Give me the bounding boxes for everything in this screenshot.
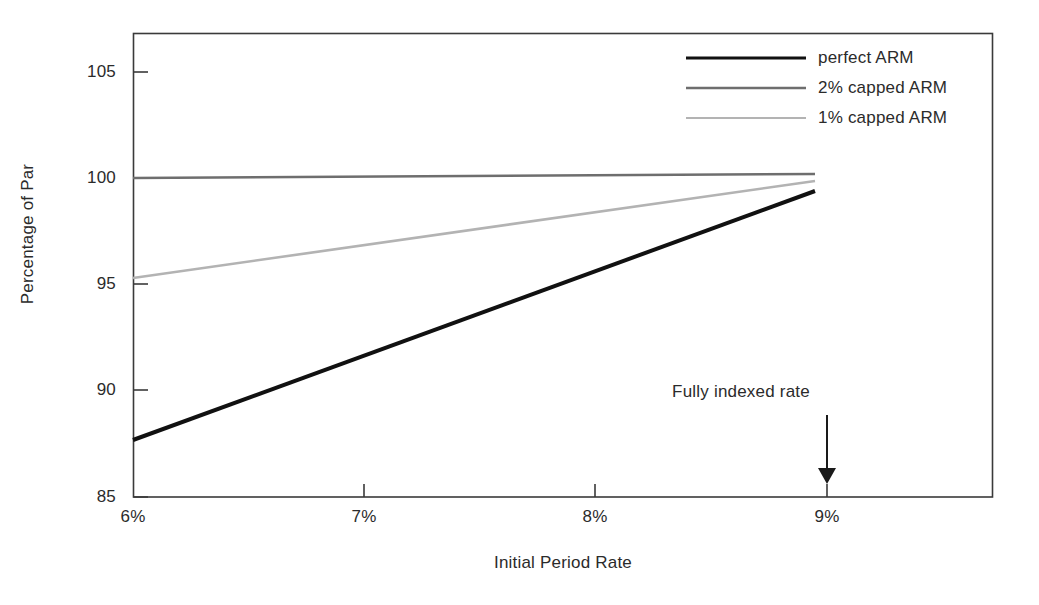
x-axis-ticks xyxy=(364,484,827,497)
x-tick-label-8pct: 8% xyxy=(555,507,635,527)
chart-figure: 105 100 95 90 85 6% 7% 8% 9% Percentage … xyxy=(0,0,1039,605)
legend-label-perfect-arm: perfect ARM xyxy=(818,48,914,68)
series-line-2pct-capped-arm xyxy=(133,174,815,178)
legend-sample-lines xyxy=(686,58,806,118)
y-tick-label-85: 85 xyxy=(46,487,116,507)
fully-indexed-rate-annotation: Fully indexed rate xyxy=(672,382,810,402)
x-tick-label-7pct: 7% xyxy=(324,507,404,527)
legend-label-2pct-capped-arm: 2% capped ARM xyxy=(818,78,947,98)
plot-frame xyxy=(134,34,993,498)
y-axis-title: Percentage of Par xyxy=(18,144,38,324)
x-tick-label-6pct: 6% xyxy=(93,507,173,527)
y-tick-label-105: 105 xyxy=(46,62,116,82)
legend-label-1pct-capped-arm: 1% capped ARM xyxy=(818,108,947,128)
y-tick-label-90: 90 xyxy=(46,380,116,400)
fully-indexed-rate-arrow-icon xyxy=(818,415,836,484)
y-tick-label-95: 95 xyxy=(46,274,116,294)
y-tick-label-100: 100 xyxy=(46,168,116,188)
x-axis-title: Initial Period Rate xyxy=(133,553,993,573)
x-tick-label-9pct: 9% xyxy=(787,507,867,527)
